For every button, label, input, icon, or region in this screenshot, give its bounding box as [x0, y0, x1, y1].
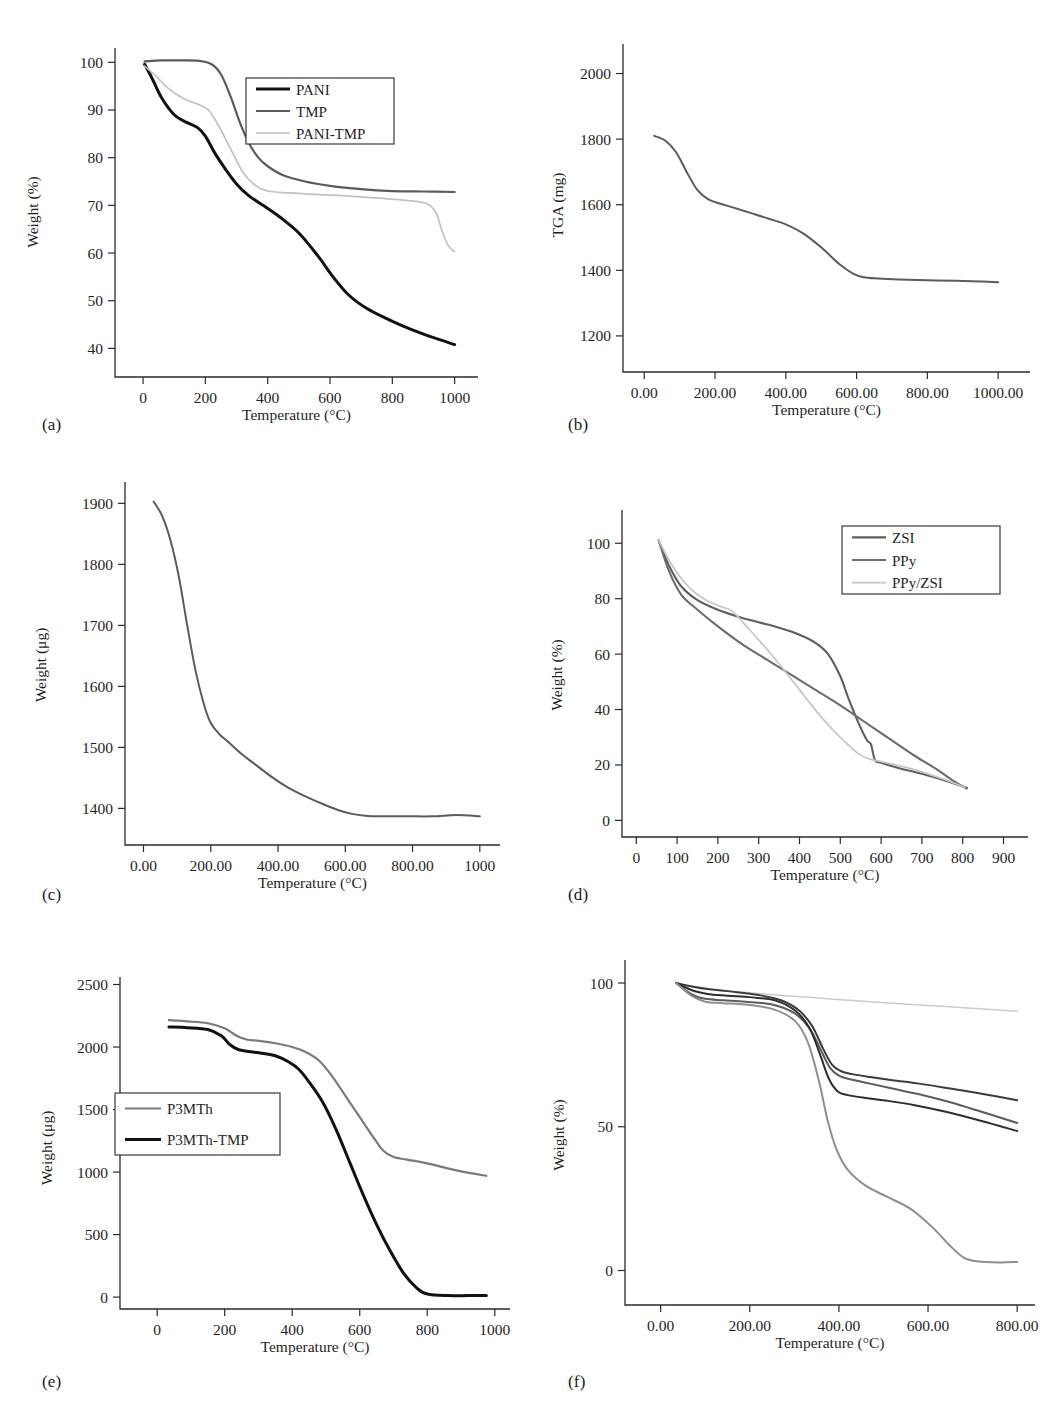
x-tick-label: 1000 — [464, 857, 495, 874]
y-tick-label: 40 — [88, 340, 104, 357]
x-tick-label: 800 — [381, 389, 405, 406]
y-tick-label: 0 — [100, 1289, 108, 1306]
x-tick-label: 100 — [665, 849, 689, 866]
x-tick-label: 500 — [829, 849, 853, 866]
x-tick-label: 800 — [951, 849, 975, 866]
y-tick-label: 1200 — [580, 327, 611, 344]
panel-d-plot: 0204060801000100200300400500600700800900… — [530, 450, 1061, 920]
x-tick-label: 600 — [318, 389, 342, 406]
x-tick-label: 400.00 — [764, 384, 807, 401]
x-tick-label: 300 — [747, 849, 771, 866]
y-tick-label: 2000 — [77, 1039, 108, 1056]
panel-caption-e: (e) — [42, 1372, 61, 1392]
y-tick-label: 1400 — [580, 262, 611, 279]
y-tick-label: 1500 — [77, 1101, 108, 1118]
panel-a-plot: 40506070809010002004006008001000Temperat… — [0, 0, 530, 450]
x-tick-label: 800.00 — [391, 857, 434, 874]
legend-label: P3MTh — [167, 1101, 213, 1117]
panel-b: 120014001600180020000.00200.00400.00600.… — [530, 0, 1061, 450]
legend-label: PANI-TMP — [296, 126, 365, 142]
data-curve-tga-curve — [654, 136, 998, 282]
panel-f-plot: 0501000.00200.00400.00600.00800.00Temper… — [530, 920, 1061, 1412]
y-tick-label: 1000 — [77, 1164, 108, 1181]
y-axis-title: Weight (μg) — [32, 628, 50, 703]
x-tick-label: 0 — [632, 849, 640, 866]
y-tick-label: 80 — [595, 590, 611, 607]
x-axis-title: Temperature (°C) — [771, 866, 880, 884]
legend-label: PANI — [296, 82, 330, 98]
y-tick-label: 1900 — [82, 495, 113, 512]
x-tick-label: 0.00 — [631, 384, 658, 401]
x-tick-label: 0 — [139, 389, 147, 406]
x-axis-title: Temperature (°C) — [772, 401, 881, 419]
panel-caption-b: (b) — [568, 415, 588, 435]
x-tick-label: 200.00 — [728, 1317, 771, 1334]
y-tick-label: 0 — [605, 1262, 613, 1279]
y-tick-label: 100 — [80, 54, 104, 71]
y-tick-label: 40 — [595, 701, 611, 718]
data-curve-curve-1 — [676, 983, 1017, 1011]
y-tick-label: 1600 — [580, 196, 611, 213]
axis-spine — [125, 482, 500, 845]
axis-spine — [623, 44, 1030, 372]
y-tick-label: 50 — [88, 292, 104, 309]
y-tick-label: 1500 — [82, 739, 113, 756]
panel-a: 40506070809010002004006008001000Temperat… — [0, 0, 530, 450]
x-tick-label: 0.00 — [130, 857, 157, 874]
legend-label: TMP — [296, 104, 327, 120]
x-tick-label: 0.00 — [647, 1317, 674, 1334]
y-axis-title: TGA (mg) — [549, 172, 567, 237]
panel-e-plot: 0500100015002000250002004006008001000Tem… — [0, 920, 530, 1412]
y-tick-label: 500 — [85, 1226, 109, 1243]
y-tick-label: 1700 — [82, 617, 113, 634]
panel-caption-d: (d) — [568, 885, 588, 905]
y-tick-label: 100 — [587, 535, 611, 552]
y-tick-label: 100 — [590, 975, 614, 992]
y-tick-label: 0 — [602, 812, 610, 829]
x-tick-label: 900 — [992, 849, 1016, 866]
panel-caption-c: (c) — [42, 885, 61, 905]
y-axis-title: Weight (%) — [550, 1099, 568, 1171]
x-tick-label: 200.00 — [694, 384, 737, 401]
legend-label: PPy — [892, 553, 917, 569]
y-tick-label: 20 — [595, 756, 611, 773]
x-tick-label: 600 — [348, 1321, 372, 1338]
x-tick-label: 200 — [213, 1321, 237, 1338]
x-tick-label: 1000 — [479, 1321, 510, 1338]
panel-d: 0204060801000100200300400500600700800900… — [530, 450, 1061, 920]
data-curve-p3mth-tmp — [169, 1027, 486, 1296]
panel-e: 0500100015002000250002004006008001000Tem… — [0, 920, 530, 1412]
panel-b-plot: 120014001600180020000.00200.00400.00600.… — [530, 0, 1061, 450]
x-tick-label: 1000.00 — [973, 384, 1024, 401]
y-tick-label: 90 — [88, 101, 104, 118]
x-tick-label: 200 — [194, 389, 218, 406]
panel-f: 0501000.00200.00400.00600.00800.00Temper… — [530, 920, 1061, 1412]
x-tick-label: 600.00 — [324, 857, 367, 874]
data-curve-curve-4 — [676, 983, 1017, 1131]
x-tick-label: 400 — [256, 389, 280, 406]
x-tick-label: 1000 — [439, 389, 470, 406]
y-tick-label: 60 — [88, 245, 104, 262]
x-tick-label: 600.00 — [835, 384, 878, 401]
panel-caption-f: (f) — [568, 1372, 586, 1392]
x-tick-label: 200.00 — [189, 857, 232, 874]
figure-grid: 40506070809010002004006008001000Temperat… — [0, 0, 1061, 1412]
panel-c-plot: 1400150016001700180019000.00200.00400.00… — [0, 450, 530, 920]
y-tick-label: 70 — [88, 197, 104, 214]
x-tick-label: 400.00 — [818, 1317, 861, 1334]
y-tick-label: 1600 — [82, 678, 113, 695]
y-tick-label: 60 — [595, 646, 611, 663]
panel-c: 1400150016001700180019000.00200.00400.00… — [0, 450, 530, 920]
x-tick-label: 400 — [281, 1321, 305, 1338]
x-tick-label: 800.00 — [906, 384, 949, 401]
x-tick-label: 400 — [788, 849, 812, 866]
y-tick-label: 1800 — [82, 556, 113, 573]
y-axis-title: Weight (%) — [548, 639, 566, 711]
y-axis-title: Weight (%) — [24, 176, 42, 248]
y-tick-label: 50 — [598, 1118, 614, 1135]
y-tick-label: 1800 — [580, 131, 611, 148]
x-tick-label: 800.00 — [996, 1317, 1039, 1334]
x-axis-title: Temperature (°C) — [258, 874, 367, 892]
y-tick-label: 80 — [88, 149, 104, 166]
x-axis-title: Temperature (°C) — [261, 1338, 370, 1356]
